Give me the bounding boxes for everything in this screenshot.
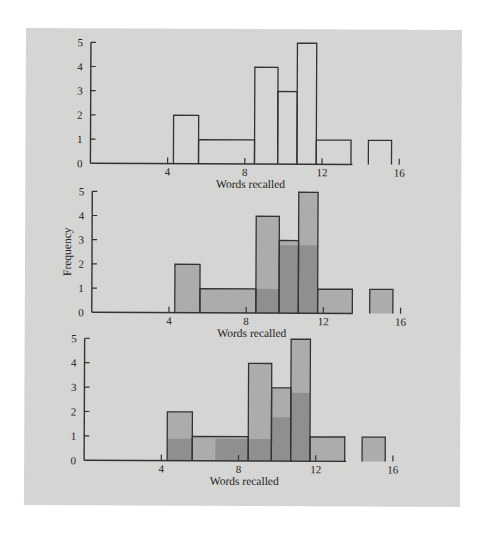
histogram-bar xyxy=(173,115,198,164)
histogram-bar xyxy=(297,43,317,164)
histogram-bar xyxy=(198,140,254,164)
y-tick-label: 5 xyxy=(71,332,77,344)
x-axis-title: Words recalled xyxy=(217,327,286,339)
histogram-shaded-middle: 012345481216Words recalledFrequency xyxy=(61,185,407,340)
histogram-bar xyxy=(278,91,298,164)
histogram-bar-outline xyxy=(254,67,278,164)
histogram-shade-layer xyxy=(291,393,311,461)
y-tick-label: 5 xyxy=(77,36,83,48)
x-axis-title: Words recalled xyxy=(216,178,285,190)
y-tick-label: 2 xyxy=(78,258,84,270)
y-tick-label: 1 xyxy=(78,282,84,294)
x-tick-label: 12 xyxy=(318,315,329,327)
histogram-bar xyxy=(362,437,385,462)
x-tick-label: 4 xyxy=(159,463,165,475)
x-axis xyxy=(90,163,352,164)
x-tick-label: 8 xyxy=(242,166,248,178)
histogram-shade-layer xyxy=(215,439,271,461)
x-tick-label: 8 xyxy=(243,315,249,327)
histogram-figure: 012345481216Words recalled 012345481216W… xyxy=(24,28,462,507)
histogram-bar xyxy=(175,264,200,313)
x-tick-label: 8 xyxy=(236,463,242,475)
y-tick-label: 5 xyxy=(79,185,85,197)
y-tick-label: 4 xyxy=(71,357,77,369)
histogram-bar-outline xyxy=(173,115,198,164)
y-tick-label: 2 xyxy=(77,109,83,121)
y-tick-label: 0 xyxy=(77,157,83,169)
y-tick-label: 3 xyxy=(77,85,83,97)
histogram-bar-outline xyxy=(198,140,254,164)
histogram-bar xyxy=(370,289,393,313)
histogram-shaded-bottom: 012345481216Words recalled xyxy=(71,332,400,487)
histogram-bar xyxy=(368,140,391,164)
y-tick-label: 0 xyxy=(71,454,77,466)
x-tick-label: 4 xyxy=(165,166,171,178)
histogram-shade-layer xyxy=(167,439,192,461)
histogram-bar xyxy=(254,67,278,164)
y-tick-label: 3 xyxy=(79,234,85,246)
y-axis xyxy=(84,338,85,460)
y-tick-label: 4 xyxy=(79,209,85,221)
x-tick-label: 12 xyxy=(310,463,321,475)
y-tick-label: 4 xyxy=(77,60,83,72)
histogram-bar-outline xyxy=(278,91,298,164)
x-tick-label: 4 xyxy=(166,315,172,327)
x-tick-label: 16 xyxy=(395,316,407,328)
y-tick-label: 0 xyxy=(78,306,84,318)
x-tick-label: 16 xyxy=(394,167,406,179)
figure-panel: 012345481216Words recalled 012345481216W… xyxy=(24,28,462,507)
histogram-outline-top: 012345481216Words recalled xyxy=(77,36,406,190)
y-axis xyxy=(92,191,93,312)
histogram-shade-layer xyxy=(271,417,290,461)
histogram-shade-layer xyxy=(256,289,279,313)
y-tick-label: 2 xyxy=(71,405,77,417)
x-tick-label: 16 xyxy=(387,464,399,476)
y-axis-title: Frequency xyxy=(61,227,74,276)
y-tick-label: 1 xyxy=(71,430,77,442)
x-axis-title: Words recalled xyxy=(210,475,279,487)
y-tick-label: 3 xyxy=(71,381,77,393)
y-tick-label: 1 xyxy=(77,133,83,145)
histogram-bar-outline xyxy=(368,140,391,164)
x-tick-label: 12 xyxy=(316,166,327,178)
histogram-bar xyxy=(200,289,256,313)
y-axis xyxy=(90,42,91,163)
histogram-bar-outline xyxy=(297,43,317,164)
